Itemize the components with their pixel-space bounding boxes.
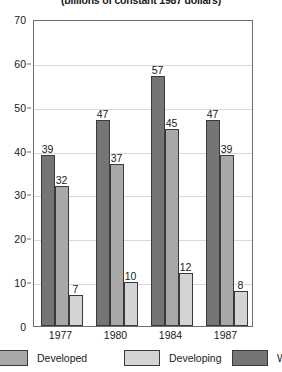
x-axis: 1977198019841987	[33, 329, 253, 343]
bar	[41, 155, 55, 326]
legend-label: Developing	[169, 352, 222, 364]
bar	[206, 120, 220, 326]
bar-value-label: 45	[166, 117, 178, 129]
y-tick-mark	[27, 107, 31, 108]
bar	[96, 120, 110, 326]
bar	[165, 129, 179, 326]
x-tick-label: 1977	[49, 329, 72, 341]
y-axis: 010203040506070	[0, 20, 31, 327]
y-tick-mark	[27, 195, 31, 196]
y-tick-mark	[27, 283, 31, 284]
x-tick-label: 1984	[159, 329, 182, 341]
bar	[220, 155, 234, 326]
y-tick-mark	[27, 63, 31, 64]
legend-swatch	[124, 350, 160, 366]
y-tick-label: 60	[14, 58, 26, 70]
y-tick-label: 20	[14, 233, 26, 245]
legend-swatch	[232, 350, 268, 366]
y-tick-label: 50	[14, 102, 26, 114]
bar	[124, 282, 138, 326]
x-tick-label: 1987	[214, 329, 237, 341]
bar-value-label: 47	[207, 108, 219, 120]
plot-area: 3932747371057451247398	[33, 20, 253, 327]
gridline	[34, 109, 252, 110]
x-tick-label: 1980	[104, 329, 127, 341]
legend-item[interactable]: Developing	[124, 350, 222, 366]
legend-item[interactable]: Developed	[0, 350, 87, 366]
legend-label: Wo	[277, 352, 282, 364]
bar-value-label: 47	[97, 108, 109, 120]
bar-value-label: 10	[125, 270, 137, 282]
bar-value-label: 12	[180, 261, 192, 273]
y-tick-label: 70	[14, 14, 26, 26]
bar-value-label: 32	[56, 174, 68, 186]
bar	[179, 273, 193, 326]
y-tick-label: 30	[14, 189, 26, 201]
bar-value-label: 37	[111, 152, 123, 164]
bar-value-label: 39	[221, 143, 233, 155]
legend-item[interactable]: Wo	[232, 350, 282, 366]
bar-value-label: 39	[42, 143, 54, 155]
gridline	[34, 65, 252, 66]
bar-value-label: 7	[73, 283, 79, 295]
bar	[69, 295, 83, 326]
bar-value-label: 57	[152, 64, 164, 76]
chart-legend: DevelopedDevelopingWo	[0, 350, 282, 370]
bar	[110, 164, 124, 326]
bar	[234, 291, 248, 326]
y-tick-mark	[27, 151, 31, 152]
legend-label: Developed	[37, 352, 87, 364]
bar	[151, 76, 165, 326]
y-tick-label: 10	[14, 277, 26, 289]
legend-swatch	[0, 350, 28, 366]
bar-value-label: 8	[238, 279, 244, 291]
y-tick-label: 40	[14, 146, 26, 158]
chart-title: (billions of constant 1987 dollars)	[0, 0, 282, 6]
y-tick-mark	[27, 239, 31, 240]
bar	[55, 186, 69, 326]
y-tick-label: 0	[20, 321, 26, 333]
